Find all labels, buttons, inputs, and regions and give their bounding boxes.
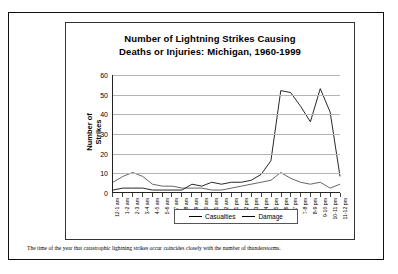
x-tick bbox=[191, 193, 192, 197]
x-tick-label: 2-3 am bbox=[134, 198, 140, 214]
y-tick-label: 30 bbox=[100, 131, 108, 138]
x-tick bbox=[320, 193, 321, 197]
gridline bbox=[113, 154, 340, 155]
gridline bbox=[113, 173, 340, 174]
x-tick bbox=[181, 193, 182, 197]
x-tick-label: 11-12 pm bbox=[342, 198, 348, 220]
plot-canvas bbox=[112, 75, 340, 193]
x-tick-label: 10-11 pm bbox=[332, 198, 338, 220]
x-tick bbox=[171, 193, 172, 197]
chart-title-line-2: Deaths or Injuries: Michigan, 1960-1999 bbox=[66, 46, 354, 59]
x-tick bbox=[211, 193, 212, 197]
gridline bbox=[113, 134, 340, 135]
x-tick bbox=[122, 193, 123, 197]
x-tick bbox=[142, 193, 143, 197]
chart-title-line-1: Number of Lightning Strikes Causing bbox=[66, 33, 354, 46]
x-tick-label: 8-9 pm bbox=[312, 198, 318, 214]
x-tick bbox=[261, 193, 262, 197]
x-tick-label: 5-6 am bbox=[164, 198, 170, 214]
x-tick bbox=[340, 193, 341, 197]
legend-label-damage: Damage bbox=[258, 213, 283, 220]
x-tick bbox=[152, 193, 153, 197]
x-tick-label: 9-10 pm bbox=[322, 198, 328, 217]
x-tick bbox=[241, 193, 242, 197]
series-line-damage bbox=[113, 89, 340, 190]
x-tick-label: 3-4 am bbox=[144, 198, 150, 214]
x-tick-label: 7-8 pm bbox=[302, 198, 308, 214]
page-border: Number of Lightning Strikes Causing Deat… bbox=[8, 12, 384, 260]
x-tick bbox=[251, 193, 252, 197]
legend-item-damage: Damage bbox=[242, 213, 283, 220]
x-tick bbox=[290, 193, 291, 197]
x-tick bbox=[162, 193, 163, 197]
x-tick bbox=[310, 193, 311, 197]
chart-frame: Number of Lightning Strikes Causing Deat… bbox=[65, 22, 355, 240]
plot-area: Number of Strikes 0102030405060 12-1 am1… bbox=[66, 75, 356, 205]
y-tick-label: 40 bbox=[100, 111, 108, 118]
x-tick bbox=[271, 193, 272, 197]
x-tick bbox=[231, 193, 232, 197]
x-tick bbox=[112, 193, 113, 197]
x-tick bbox=[281, 193, 282, 197]
y-tick-label: 60 bbox=[100, 72, 108, 79]
x-tick bbox=[221, 193, 222, 197]
chart-title: Number of Lightning Strikes Causing Deat… bbox=[66, 33, 354, 58]
legend-swatch-damage bbox=[242, 216, 255, 217]
x-tick-label: 1-2 am bbox=[124, 198, 130, 214]
legend-item-casualties: Casualties bbox=[189, 213, 235, 220]
gridline bbox=[113, 95, 340, 96]
x-tick bbox=[132, 193, 133, 197]
y-axis-ticks: 0102030405060 bbox=[92, 75, 108, 193]
figure-caption: The time of the year that catastrophic l… bbox=[27, 245, 327, 253]
series-line-casualties bbox=[113, 172, 340, 190]
x-axis-ticks bbox=[112, 193, 340, 197]
y-tick-label: 10 bbox=[100, 170, 108, 177]
y-tick-label: 50 bbox=[100, 91, 108, 98]
gridline bbox=[113, 75, 340, 76]
legend-label-casualties: Casualties bbox=[205, 213, 235, 220]
x-tick bbox=[201, 193, 202, 197]
y-tick-label: 20 bbox=[100, 150, 108, 157]
x-tick bbox=[300, 193, 301, 197]
x-tick-label: 4-5 am bbox=[154, 198, 160, 214]
legend-swatch-casualties bbox=[189, 216, 202, 217]
x-tick-label: 12-1 am bbox=[114, 198, 120, 217]
y-tick-label: 0 bbox=[104, 190, 108, 197]
x-tick bbox=[330, 193, 331, 197]
chart-legend: Casualties Damage bbox=[174, 209, 298, 224]
gridline bbox=[113, 114, 340, 115]
